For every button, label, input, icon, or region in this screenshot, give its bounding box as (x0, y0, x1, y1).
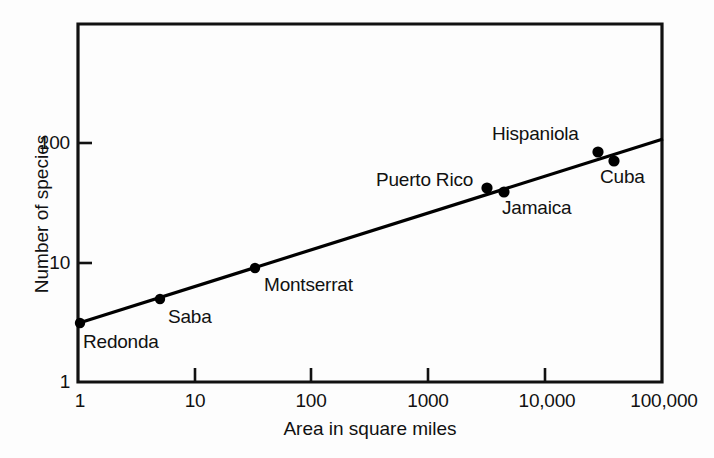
data-point-puerto-rico (481, 182, 492, 193)
species-area-chart: 100 10 1 1 10 100 1000 10,000 100,000 Nu… (0, 0, 714, 458)
point-label-jamaica: Jamaica (502, 197, 571, 219)
point-label-montserrat: Montserrat (264, 274, 353, 296)
point-label-hispaniola: Hispaniola (492, 123, 579, 145)
x-tick-label-1: 1 (75, 390, 85, 412)
data-point-jamaica (498, 186, 509, 197)
x-axis-title: Area in square miles (78, 418, 662, 440)
x-tick-label-1000: 1000 (407, 390, 448, 412)
point-label-saba: Saba (168, 306, 212, 328)
axis-frame (78, 24, 662, 382)
x-tick-label-10: 10 (185, 390, 206, 412)
x-tick-label-10000: 10,000 (519, 390, 576, 412)
x-tick-label-100000: 100,000 (630, 390, 697, 412)
x-tick-label-100: 100 (295, 390, 326, 412)
point-label-cuba: Cuba (600, 166, 645, 188)
point-label-puerto-rico: Puerto Rico (376, 169, 473, 191)
point-label-redonda: Redonda (83, 331, 159, 353)
y-axis-ticks (78, 143, 92, 263)
y-axis-title: Number of species (31, 94, 53, 334)
data-point-saba (155, 294, 165, 304)
data-point-hispaniola (592, 146, 603, 157)
data-point-cuba (608, 155, 619, 166)
y-tick-label-1: 1 (8, 371, 70, 393)
data-point-montserrat (250, 263, 260, 273)
plot-canvas (0, 0, 714, 458)
trend-line (79, 139, 663, 323)
data-point-redonda (75, 318, 85, 328)
x-axis-ticks (195, 368, 545, 382)
